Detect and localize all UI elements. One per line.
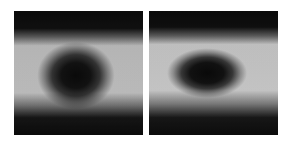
image-panel-right [149,11,278,135]
panel-left-fallback-gradient [14,11,143,135]
panel-right-fallback-gradient [149,11,278,135]
image-panel-left [14,11,143,135]
figure-root [0,0,291,148]
